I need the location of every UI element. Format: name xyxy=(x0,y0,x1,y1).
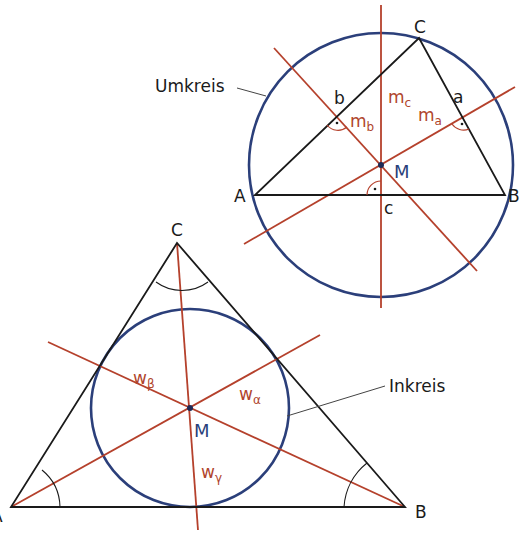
vertex-label-b-upper: B xyxy=(508,186,520,206)
umkreis-figure: Umkreis A B C a b c mc mb ma M xyxy=(155,5,520,308)
vertex-label-a-upper: A xyxy=(234,186,246,206)
inkreis-figure: Inkreis A B C wβ wα wγ M xyxy=(0,220,445,530)
center-label-lower: M xyxy=(194,420,210,441)
right-angle-marker-c xyxy=(367,181,381,195)
inkreis-label: Inkreis xyxy=(389,376,445,396)
inkreis-pointer xyxy=(287,386,385,416)
bisector-label-mc: mc xyxy=(388,87,411,110)
umkreis-pointer xyxy=(237,88,266,96)
vertex-label-c-lower: C xyxy=(171,220,183,240)
bisector-label-w-gamma: wγ xyxy=(201,462,222,485)
bisector-label-w-alpha: wα xyxy=(239,384,261,407)
bisector-label-mb: mb xyxy=(350,111,374,134)
vertex-label-c-upper: C xyxy=(414,17,426,37)
incenter-point xyxy=(187,405,193,411)
side-label-a: a xyxy=(453,87,463,107)
triangle-abc-upper xyxy=(255,38,505,195)
angle-arc-gamma xyxy=(156,282,208,291)
vertex-label-b-lower: B xyxy=(415,502,427,522)
vertex-label-a-lower: A xyxy=(0,506,3,526)
geometry-diagram: Umkreis A B C a b c mc mb ma M Inkrei xyxy=(0,0,527,540)
bisector-label-ma: ma xyxy=(418,105,442,128)
bisector-label-w-beta: wβ xyxy=(133,368,155,391)
angle-bisector-w-alpha xyxy=(11,335,320,507)
side-label-c: c xyxy=(384,198,393,218)
center-label-upper: M xyxy=(394,161,410,182)
angle-bisector-w-gamma xyxy=(177,243,198,530)
side-label-b: b xyxy=(334,88,345,108)
circumcenter-point xyxy=(378,162,384,168)
bisector-mb xyxy=(274,48,477,271)
umkreis-label: Umkreis xyxy=(155,76,225,96)
angle-bisector-w-beta xyxy=(48,342,405,507)
